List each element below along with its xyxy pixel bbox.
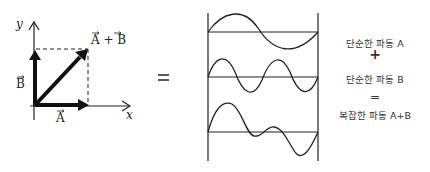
wave-b [208, 59, 318, 92]
legend-wave-sum: 복잡한 파동 A+B [320, 108, 430, 122]
x-axis-label: x [126, 108, 133, 122]
vector-b-arrow [29, 50, 41, 106]
diagram-canvas [0, 0, 430, 172]
vector-sum-label: A + B [91, 33, 126, 47]
vector-b-label: B [16, 77, 25, 91]
y-axis-label: y [16, 17, 23, 31]
legend-wave-b: 단순한 파동 B [320, 72, 430, 86]
vector-a-arrow [35, 99, 89, 111]
wave-sum [208, 103, 318, 155]
legend-equals: = [320, 90, 430, 104]
equals-sign-graphic [158, 75, 169, 80]
vector-a-label: A [56, 111, 65, 125]
legend-plus: + [320, 46, 430, 62]
vector-sum-arrow [36, 49, 88, 104]
